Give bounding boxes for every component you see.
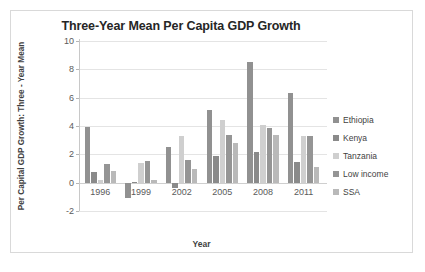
bar-slot xyxy=(151,41,158,211)
bar[interactable] xyxy=(233,143,238,183)
bar-group: 2008 xyxy=(243,41,284,211)
y-tick-label: 0 xyxy=(69,178,74,188)
bar[interactable] xyxy=(307,136,312,183)
bar[interactable] xyxy=(111,171,116,183)
bar[interactable] xyxy=(132,182,137,183)
bar-set xyxy=(121,41,162,211)
bar[interactable] xyxy=(91,172,96,183)
legend-swatch-icon xyxy=(333,189,339,195)
bar[interactable] xyxy=(220,120,225,183)
bar[interactable] xyxy=(192,169,197,182)
x-tick-label: 2008 xyxy=(243,187,284,197)
y-tick-label: 10 xyxy=(64,36,74,46)
bar[interactable] xyxy=(314,167,319,183)
chart-container: Three-Year Mean Per Capita GDP Growth Pe… xyxy=(10,10,413,253)
legend-label: Kenya xyxy=(343,133,367,143)
y-tick-label: 6 xyxy=(69,93,74,103)
x-axis-title: Year xyxy=(79,239,324,249)
y-tick-mark xyxy=(76,211,79,212)
gridline xyxy=(79,211,327,212)
bar-slot xyxy=(232,41,239,211)
bar-group: 1996 xyxy=(80,41,121,211)
bar-set xyxy=(283,41,324,211)
bar[interactable] xyxy=(185,160,190,183)
bar-slot xyxy=(313,41,320,211)
legend-item[interactable]: Tanzania xyxy=(333,147,413,165)
bar-group: 2002 xyxy=(161,41,202,211)
x-tick-label: 2005 xyxy=(202,187,243,197)
y-tick-label: 4 xyxy=(69,121,74,131)
bar-group: 2011 xyxy=(283,41,324,211)
bar-set xyxy=(243,41,284,211)
bar[interactable] xyxy=(247,62,252,182)
bar[interactable] xyxy=(226,135,231,182)
bar-group: 2005 xyxy=(202,41,243,211)
y-tick-mark xyxy=(76,98,79,99)
y-tick-label: 8 xyxy=(69,64,74,74)
y-tick-label: -2 xyxy=(66,206,74,216)
legend-swatch-icon xyxy=(333,171,339,177)
bar[interactable] xyxy=(85,127,90,182)
legend-item[interactable]: Low income xyxy=(333,165,413,183)
bar-set xyxy=(80,41,121,211)
y-tick-mark xyxy=(76,183,79,184)
bar-slot xyxy=(110,41,117,211)
bar-set xyxy=(202,41,243,211)
x-tick-label: 2011 xyxy=(283,187,324,197)
y-tick-label: 2 xyxy=(69,149,74,159)
bar[interactable] xyxy=(294,162,299,183)
plot-inner: 1086420-2 199619992002200520082011 xyxy=(79,41,324,211)
plot-area: 1086420-2 199619992002200520082011 xyxy=(79,41,324,211)
legend-swatch-icon xyxy=(333,153,339,159)
bar[interactable] xyxy=(267,128,272,183)
legend-label: Low income xyxy=(343,169,388,179)
legend-label: Tanzania xyxy=(343,151,377,161)
bar[interactable] xyxy=(301,136,306,183)
x-tick-label: 2002 xyxy=(161,187,202,197)
y-tick-mark xyxy=(76,69,79,70)
y-tick-mark xyxy=(76,154,79,155)
legend-swatch-icon xyxy=(333,135,339,141)
bar[interactable] xyxy=(166,147,171,183)
bar[interactable] xyxy=(179,136,184,183)
bar[interactable] xyxy=(138,163,143,183)
bar[interactable] xyxy=(151,180,156,183)
legend-swatch-icon xyxy=(333,117,339,123)
legend-item[interactable]: Ethiopia xyxy=(333,111,413,129)
y-tick-mark xyxy=(76,41,79,42)
chart-title: Three-Year Mean Per Capita GDP Growth xyxy=(11,19,351,33)
bar-groups: 199619992002200520082011 xyxy=(80,41,324,211)
x-tick-label: 1999 xyxy=(121,187,162,197)
legend-label: Ethiopia xyxy=(343,115,374,125)
bar[interactable] xyxy=(273,135,278,182)
bar[interactable] xyxy=(260,125,265,182)
y-axis-title: Per Capital GDP Growth: Three - Year Mea… xyxy=(17,41,39,211)
legend-item[interactable]: Kenya xyxy=(333,129,413,147)
bar-group: 1999 xyxy=(121,41,162,211)
legend-label: SSA xyxy=(343,187,360,197)
legend-item[interactable]: SSA xyxy=(333,183,413,201)
bar[interactable] xyxy=(288,93,293,182)
bar[interactable] xyxy=(145,161,150,183)
bar-slot xyxy=(191,41,198,211)
chart-legend: EthiopiaKenyaTanzaniaLow incomeSSA xyxy=(333,111,413,201)
bar[interactable] xyxy=(213,156,218,183)
x-tick-label: 1996 xyxy=(80,187,121,197)
bar[interactable] xyxy=(207,110,212,182)
bar[interactable] xyxy=(254,152,259,183)
bar[interactable] xyxy=(98,180,103,183)
y-tick-mark xyxy=(76,126,79,127)
bar-slot xyxy=(273,41,280,211)
bar-set xyxy=(161,41,202,211)
bar[interactable] xyxy=(104,164,109,182)
